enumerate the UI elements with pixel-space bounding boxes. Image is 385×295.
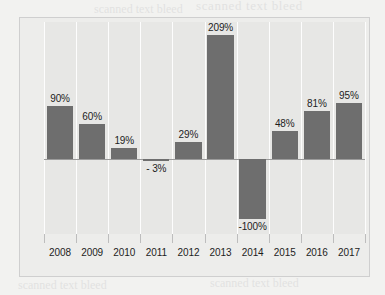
x-axis: 2008200920102011201220132014201520162017 bbox=[44, 234, 365, 272]
x-axis-tick-label: 2010 bbox=[108, 247, 140, 258]
bar[interactable] bbox=[175, 142, 201, 159]
bar[interactable] bbox=[304, 111, 330, 159]
bar-value-label: 19% bbox=[108, 135, 140, 146]
bar-group[interactable]: 81% bbox=[301, 22, 333, 234]
plot-area: 90%60%19%- 3%29%209%-100%48%81%95% bbox=[44, 22, 365, 234]
x-axis-tick-label: 2016 bbox=[301, 247, 333, 258]
bar-value-label: 81% bbox=[301, 98, 333, 109]
bar-value-label: 209% bbox=[205, 22, 237, 33]
x-axis-tick-label: 2014 bbox=[237, 247, 269, 258]
bleed-artifact-bottom-left: scanned text bleed bbox=[18, 278, 107, 293]
bar-value-label: - 3% bbox=[140, 163, 172, 174]
x-axis-tick bbox=[301, 234, 302, 243]
bar-group[interactable]: 19% bbox=[108, 22, 140, 234]
bar-group[interactable]: 209% bbox=[205, 22, 237, 234]
bleed-artifact-bottom-right: scanned text bleed bbox=[210, 276, 299, 291]
bleed-artifact-top-right: scanned text bleed bbox=[196, 0, 303, 14]
bar[interactable] bbox=[143, 159, 169, 161]
bar-group[interactable]: 60% bbox=[76, 22, 108, 234]
bar[interactable] bbox=[239, 159, 265, 219]
bar-group[interactable]: - 3% bbox=[140, 22, 172, 234]
x-axis-tick-label: 2009 bbox=[76, 247, 108, 258]
bar[interactable] bbox=[47, 106, 73, 160]
bar-value-label: 60% bbox=[76, 111, 108, 122]
bar-group[interactable]: 29% bbox=[172, 22, 204, 234]
bar[interactable] bbox=[272, 131, 298, 160]
x-axis-tick bbox=[333, 234, 334, 243]
x-axis-tick bbox=[205, 234, 206, 243]
chart-frame: Return on Investment 90%60%19%- 3%29%209… bbox=[19, 17, 370, 277]
bar-group[interactable]: 95% bbox=[333, 22, 365, 234]
bar[interactable] bbox=[79, 124, 105, 160]
x-axis-tick bbox=[172, 234, 173, 243]
bar[interactable] bbox=[336, 103, 362, 160]
x-axis-tick-label: 2011 bbox=[140, 247, 172, 258]
bar[interactable] bbox=[207, 35, 233, 160]
x-axis-tick bbox=[237, 234, 238, 243]
bar[interactable] bbox=[111, 148, 137, 159]
bar-value-label: 95% bbox=[333, 90, 365, 101]
bar-group[interactable]: 90% bbox=[44, 22, 76, 234]
x-axis-tick bbox=[76, 234, 77, 243]
x-axis-tick-label: 2017 bbox=[333, 247, 365, 258]
bar-group[interactable]: 48% bbox=[269, 22, 301, 234]
x-axis-tick-label: 2012 bbox=[172, 247, 204, 258]
bleed-artifact-top-left: scanned text bleed bbox=[94, 2, 183, 17]
x-axis-tick-label: 2013 bbox=[205, 247, 237, 258]
x-axis-tick bbox=[108, 234, 109, 243]
bar-value-label: 48% bbox=[269, 118, 301, 129]
x-axis-labels: 2008200920102011201220132014201520162017 bbox=[44, 247, 365, 263]
x-axis-tick-label: 2008 bbox=[44, 247, 76, 258]
x-axis-tick bbox=[365, 234, 366, 243]
x-axis-tick bbox=[140, 234, 141, 243]
bar-group[interactable]: -100% bbox=[237, 22, 269, 234]
grid-line bbox=[365, 22, 366, 234]
bar-value-label: 90% bbox=[44, 93, 76, 104]
x-axis-tick-label: 2015 bbox=[269, 247, 301, 258]
x-axis-tick bbox=[269, 234, 270, 243]
bar-value-label: -100% bbox=[237, 221, 269, 232]
x-axis-tick bbox=[44, 234, 45, 243]
bar-series: 90%60%19%- 3%29%209%-100%48%81%95% bbox=[44, 22, 365, 234]
bar-value-label: 29% bbox=[172, 129, 204, 140]
